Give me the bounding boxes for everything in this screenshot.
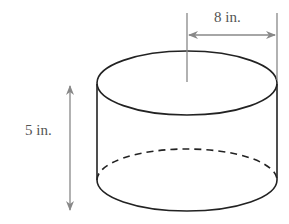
cylinder-drawing xyxy=(0,0,289,224)
radius-label: 8 in. xyxy=(214,9,241,26)
cylinder-diagram: 8 in. 5 in. xyxy=(0,0,289,224)
bottom-ellipse-hidden xyxy=(97,149,277,180)
height-label: 5 in. xyxy=(25,122,52,139)
bottom-ellipse-front xyxy=(97,180,277,211)
